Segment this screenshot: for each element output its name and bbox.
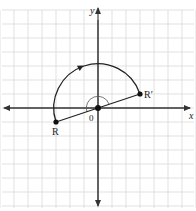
x-axis-label: x bbox=[188, 110, 194, 121]
point-origin bbox=[95, 105, 101, 111]
rotation-arc bbox=[54, 64, 140, 122]
origin-label: 0 bbox=[89, 113, 94, 123]
point-r-prime-label: R′ bbox=[144, 89, 153, 100]
y-axis-label: y bbox=[89, 5, 95, 16]
point-r bbox=[53, 119, 58, 124]
point-r-prime bbox=[137, 91, 142, 96]
point-r-label: R bbox=[52, 126, 59, 137]
rotation-diagram: x y R R′ 0 bbox=[0, 0, 196, 211]
